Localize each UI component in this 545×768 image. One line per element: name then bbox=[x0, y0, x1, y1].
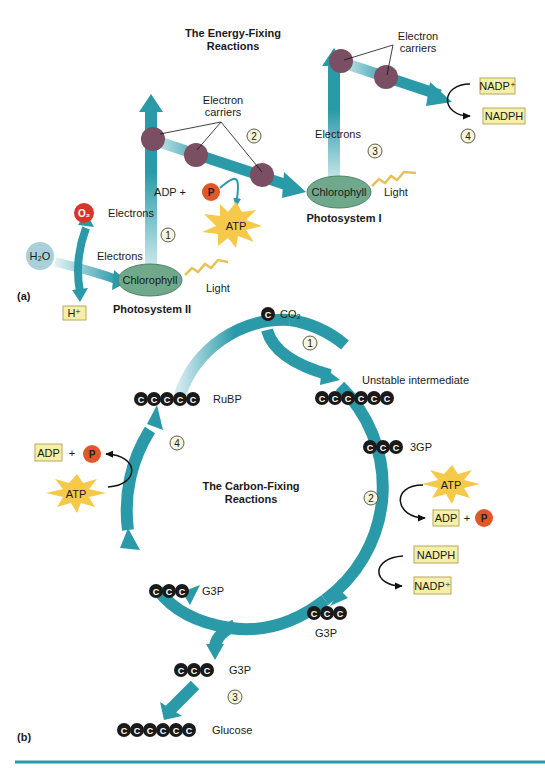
step-2: 2 bbox=[247, 129, 261, 143]
carbon-symbol: C bbox=[160, 726, 167, 736]
carbon-symbol: C bbox=[190, 395, 197, 405]
g3p-right-label: G3P bbox=[315, 627, 337, 639]
electron-carrier bbox=[141, 127, 165, 151]
carbon-symbol: C bbox=[166, 587, 173, 597]
electron-carrier bbox=[374, 65, 398, 89]
cycle-arc-left bbox=[127, 430, 150, 530]
cycle-arrow-head bbox=[147, 405, 163, 430]
carbon-symbol: C bbox=[384, 394, 391, 404]
svg-text:1: 1 bbox=[165, 230, 171, 241]
water-label: H₂O bbox=[30, 250, 51, 262]
proton-arrow-head bbox=[72, 288, 88, 302]
energy-title-line1: The Energy-Fixing bbox=[185, 27, 281, 39]
oxygen-proton-split-arrow bbox=[78, 228, 86, 292]
nadph-use-arrow bbox=[379, 556, 403, 586]
carbon-symbol: C bbox=[311, 609, 318, 619]
step-1-b: 1 bbox=[303, 336, 317, 350]
carbon-symbol: C bbox=[332, 394, 339, 404]
carbon-symbol: C bbox=[204, 666, 211, 676]
step-4-b: 4 bbox=[170, 436, 184, 450]
atp-right-label: ATP bbox=[441, 479, 462, 491]
ps1-electron-arrow-shaft bbox=[328, 62, 340, 182]
nadp-plus-b-label: NADP⁺ bbox=[414, 580, 451, 592]
light-ps2-label: Light bbox=[206, 282, 230, 294]
nadp-reduction-arrow bbox=[448, 84, 471, 116]
carbon-symbol: C bbox=[121, 726, 128, 736]
step-3: 3 bbox=[368, 144, 382, 158]
phosphate-left-label: P bbox=[89, 449, 96, 460]
carbon-symbol: C bbox=[191, 666, 198, 676]
carbon-symbol: C bbox=[134, 726, 141, 736]
carrier-pointer bbox=[344, 45, 393, 60]
step-4: 4 bbox=[461, 129, 475, 143]
atp-use-arrow-right bbox=[400, 485, 425, 518]
carbon-symbol: C bbox=[178, 666, 185, 676]
glucose-arrow bbox=[170, 685, 195, 710]
chlorophyll-ps2-label: Chlorophyll bbox=[122, 274, 177, 286]
panel-b: C CO₂ The Carbon-Fixing Reactions CCCCCC… bbox=[17, 307, 493, 743]
svg-text:1: 1 bbox=[307, 338, 313, 349]
carbon-symbol: C bbox=[337, 609, 344, 619]
3gp-label: 3GP bbox=[410, 441, 432, 453]
carbon-symbol: C bbox=[173, 726, 180, 736]
carbon-symbol: C bbox=[367, 443, 374, 453]
glucose-label: Glucose bbox=[212, 724, 252, 736]
light-ps1-label: Light bbox=[384, 186, 408, 198]
carbon-symbol: C bbox=[358, 394, 365, 404]
electron-carriers-1-line1: Electron bbox=[203, 94, 243, 106]
svg-text:2: 2 bbox=[251, 131, 257, 142]
nadph-b-label: NADPH bbox=[417, 549, 456, 561]
carbon-title-line2: Reactions bbox=[225, 493, 278, 505]
photosystem2-label: Photosystem II bbox=[113, 303, 191, 315]
carbon-symbol: C bbox=[138, 395, 145, 405]
g3p-out-chain: CCC bbox=[174, 663, 214, 677]
carbon-title-line1: The Carbon-Fixing bbox=[202, 480, 299, 492]
svg-text:C: C bbox=[265, 310, 272, 320]
carbon-symbol: C bbox=[151, 395, 158, 405]
carbon-symbol: C bbox=[371, 394, 378, 404]
light-ps2-icon bbox=[185, 260, 228, 275]
svg-text:4: 4 bbox=[174, 438, 180, 449]
nadp-plus-label: NADP⁺ bbox=[479, 80, 516, 92]
carbon-symbol: C bbox=[324, 609, 331, 619]
g3p-left-chain: CCC bbox=[149, 584, 189, 598]
nadph-label: NADPH bbox=[485, 110, 524, 122]
energy-title-line2: Reactions bbox=[207, 40, 260, 52]
carbon-symbol: C bbox=[345, 394, 352, 404]
plus-right: + bbox=[464, 512, 470, 524]
atp-left-label: ATP bbox=[66, 488, 87, 500]
svg-text:3: 3 bbox=[372, 146, 378, 157]
panel-a-label: (a) bbox=[17, 290, 31, 302]
carbon-symbol: C bbox=[186, 726, 193, 736]
carbon-atom: C bbox=[261, 307, 275, 321]
water-electron-arrow bbox=[55, 262, 118, 280]
photosystem1-label: Photosystem I bbox=[306, 212, 381, 224]
panel-b-label: (b) bbox=[17, 731, 31, 743]
adp-right-label: ADP bbox=[435, 512, 458, 524]
g3p-right-chain: CCC bbox=[307, 606, 347, 620]
photosynthesis-diagram: The Energy-Fixing Reactions H₂O O₂ H⁺ El… bbox=[0, 0, 545, 768]
carbon-symbol: C bbox=[393, 443, 400, 453]
electron-carriers-1-line2: carriers bbox=[205, 106, 242, 118]
3gp-chain: CCC bbox=[363, 440, 403, 454]
atp-synthesis-arrow bbox=[220, 179, 238, 206]
ps2-electron-arrow-head bbox=[139, 94, 163, 112]
phosphate-right-label: P bbox=[481, 513, 488, 524]
g3p-left-label: G3P bbox=[202, 585, 224, 597]
carbon-symbol: C bbox=[147, 726, 154, 736]
carbon-symbol: C bbox=[177, 395, 184, 405]
electron-carrier bbox=[250, 163, 274, 187]
light-ps1-icon bbox=[372, 172, 416, 186]
co2-label: CO₂ bbox=[280, 308, 301, 320]
cycle-arrow-head bbox=[120, 528, 140, 550]
oxygen-label: O₂ bbox=[78, 208, 90, 219]
svg-text:3: 3 bbox=[232, 692, 238, 703]
g3p-out-label: G3P bbox=[229, 664, 251, 676]
etc1-arrow-head bbox=[282, 172, 306, 198]
electron-carrier bbox=[184, 143, 208, 167]
rubp-label: RuBP bbox=[213, 393, 242, 405]
carbon-symbol: C bbox=[179, 587, 186, 597]
electron-carriers-2-line1: Electron bbox=[398, 30, 438, 42]
electrons-water-label: Electrons bbox=[97, 250, 143, 262]
adp-plus-label: ADP + bbox=[154, 186, 186, 198]
